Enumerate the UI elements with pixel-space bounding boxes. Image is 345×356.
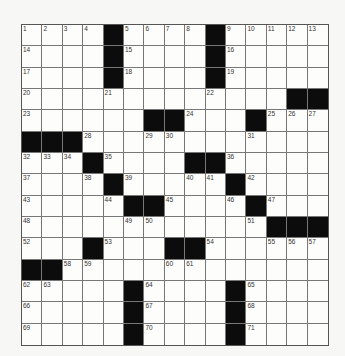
grid-cell[interactable] [165, 153, 185, 174]
grid-cell[interactable] [104, 260, 124, 281]
grid-cell[interactable] [83, 196, 103, 217]
grid-cell[interactable] [287, 153, 307, 174]
grid-cell[interactable] [185, 68, 205, 89]
grid-cell[interactable] [206, 132, 226, 153]
grid-cell[interactable] [308, 153, 328, 174]
grid-cell[interactable] [267, 46, 287, 67]
grid-cell[interactable] [124, 238, 144, 259]
grid-cell[interactable] [206, 302, 226, 323]
grid-cell[interactable] [63, 324, 83, 345]
grid-cell[interactable] [185, 281, 205, 302]
grid-cell[interactable]: 59 [83, 260, 103, 281]
grid-cell[interactable] [165, 68, 185, 89]
grid-cell[interactable]: 1 [22, 25, 42, 46]
grid-cell[interactable]: 63 [42, 281, 62, 302]
grid-cell[interactable] [308, 132, 328, 153]
grid-cell[interactable]: 50 [144, 217, 164, 238]
grid-cell[interactable] [144, 89, 164, 110]
grid-cell[interactable] [287, 324, 307, 345]
grid-cell[interactable]: 62 [22, 281, 42, 302]
grid-cell[interactable]: 56 [287, 238, 307, 259]
grid-cell[interactable] [144, 174, 164, 195]
grid-cell[interactable]: 35 [104, 153, 124, 174]
grid-cell[interactable]: 22 [206, 89, 226, 110]
grid-cell[interactable] [308, 281, 328, 302]
grid-cell[interactable] [42, 217, 62, 238]
grid-cell[interactable] [226, 110, 246, 131]
grid-cell[interactable] [144, 46, 164, 67]
grid-cell[interactable] [144, 260, 164, 281]
grid-cell[interactable]: 28 [83, 132, 103, 153]
grid-cell[interactable] [124, 132, 144, 153]
grid-cell[interactable] [206, 110, 226, 131]
grid-cell[interactable]: 23 [22, 110, 42, 131]
grid-cell[interactable] [226, 89, 246, 110]
grid-cell[interactable] [226, 132, 246, 153]
grid-cell[interactable] [185, 324, 205, 345]
grid-cell[interactable] [185, 217, 205, 238]
grid-cell[interactable] [83, 324, 103, 345]
grid-cell[interactable]: 33 [42, 153, 62, 174]
grid-cell[interactable]: 19 [226, 68, 246, 89]
grid-cell[interactable] [63, 302, 83, 323]
grid-cell[interactable]: 52 [22, 238, 42, 259]
grid-cell[interactable]: 47 [267, 196, 287, 217]
grid-cell[interactable] [267, 68, 287, 89]
grid-cell[interactable]: 16 [226, 46, 246, 67]
grid-cell[interactable] [267, 324, 287, 345]
grid-cell[interactable]: 36 [226, 153, 246, 174]
grid-cell[interactable] [42, 324, 62, 345]
grid-cell[interactable] [308, 46, 328, 67]
grid-cell[interactable]: 40 [185, 174, 205, 195]
grid-cell[interactable] [206, 260, 226, 281]
grid-cell[interactable] [287, 260, 307, 281]
grid-cell[interactable]: 24 [185, 110, 205, 131]
grid-cell[interactable]: 7 [165, 25, 185, 46]
grid-cell[interactable]: 54 [206, 238, 226, 259]
grid-cell[interactable]: 51 [246, 217, 266, 238]
grid-cell[interactable]: 65 [246, 281, 266, 302]
grid-cell[interactable] [267, 281, 287, 302]
grid-cell[interactable] [104, 281, 124, 302]
grid-cell[interactable] [42, 302, 62, 323]
grid-cell[interactable]: 5 [124, 25, 144, 46]
grid-cell[interactable] [267, 302, 287, 323]
grid-cell[interactable] [308, 196, 328, 217]
grid-cell[interactable] [83, 217, 103, 238]
grid-cell[interactable]: 25 [267, 110, 287, 131]
grid-cell[interactable] [124, 110, 144, 131]
grid-cell[interactable] [308, 324, 328, 345]
grid-cell[interactable] [165, 324, 185, 345]
grid-cell[interactable] [144, 68, 164, 89]
grid-cell[interactable] [42, 46, 62, 67]
grid-cell[interactable] [308, 260, 328, 281]
grid-cell[interactable]: 43 [22, 196, 42, 217]
grid-cell[interactable]: 64 [144, 281, 164, 302]
grid-cell[interactable] [124, 89, 144, 110]
grid-cell[interactable] [165, 281, 185, 302]
grid-cell[interactable]: 27 [308, 110, 328, 131]
grid-cell[interactable]: 57 [308, 238, 328, 259]
grid-cell[interactable] [83, 68, 103, 89]
grid-cell[interactable]: 12 [287, 25, 307, 46]
grid-cell[interactable] [165, 302, 185, 323]
grid-cell[interactable]: 11 [267, 25, 287, 46]
grid-cell[interactable]: 8 [185, 25, 205, 46]
grid-cell[interactable] [226, 217, 246, 238]
grid-cell[interactable] [165, 217, 185, 238]
grid-cell[interactable] [246, 89, 266, 110]
grid-cell[interactable]: 53 [104, 238, 124, 259]
grid-cell[interactable] [185, 302, 205, 323]
grid-cell[interactable] [42, 196, 62, 217]
grid-cell[interactable] [267, 260, 287, 281]
grid-cell[interactable]: 26 [287, 110, 307, 131]
grid-cell[interactable]: 44 [104, 196, 124, 217]
grid-cell[interactable] [206, 217, 226, 238]
grid-cell[interactable] [287, 68, 307, 89]
grid-cell[interactable] [83, 89, 103, 110]
grid-cell[interactable]: 4 [83, 25, 103, 46]
grid-cell[interactable]: 38 [83, 174, 103, 195]
grid-cell[interactable] [267, 89, 287, 110]
grid-cell[interactable]: 70 [144, 324, 164, 345]
grid-cell[interactable] [83, 110, 103, 131]
